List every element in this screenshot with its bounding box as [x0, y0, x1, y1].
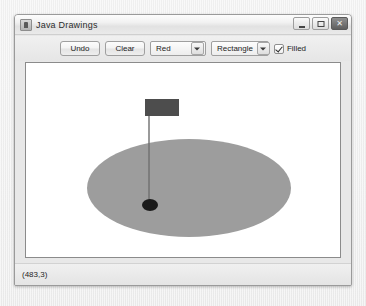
status-bar: (483,3) [15, 263, 351, 285]
toolbar: Undo Clear Red Rectangle Filled [15, 36, 351, 61]
cursor-coordinates: (483,3) [15, 270, 47, 279]
drawing-canvas[interactable] [25, 62, 341, 258]
java-app-icon [20, 19, 32, 31]
undo-button[interactable]: Undo [60, 41, 100, 56]
window-controls: ✕ [293, 17, 348, 30]
shape-select[interactable]: Rectangle [211, 41, 269, 56]
close-icon: ✕ [336, 20, 343, 28]
maximize-button[interactable] [312, 17, 329, 30]
minimize-icon [299, 26, 305, 28]
filled-checkbox-wrapper[interactable]: Filled [274, 44, 306, 54]
clear-button[interactable]: Clear [105, 41, 145, 56]
large-ellipse [87, 139, 291, 237]
filled-rectangle [145, 99, 179, 116]
chevron-down-icon[interactable] [191, 42, 204, 55]
maximize-icon [317, 21, 324, 27]
window-titlebar[interactable]: Java Drawings ✕ [15, 15, 351, 35]
shape-select-value: Rectangle [212, 44, 257, 53]
small-dot-ellipse [142, 199, 158, 211]
filled-checkbox-label: Filled [287, 44, 306, 53]
minimize-button[interactable] [293, 17, 310, 30]
color-select-value: Red [151, 44, 191, 53]
close-button[interactable]: ✕ [331, 17, 348, 30]
canvas-surface[interactable] [26, 63, 340, 257]
color-select[interactable]: Red [150, 41, 206, 56]
filled-checkbox[interactable] [274, 44, 284, 54]
window-title: Java Drawings [36, 20, 98, 30]
application-window: Java Drawings ✕ Undo Clear Red Rectangle [14, 14, 352, 286]
chevron-down-icon[interactable] [257, 42, 270, 55]
